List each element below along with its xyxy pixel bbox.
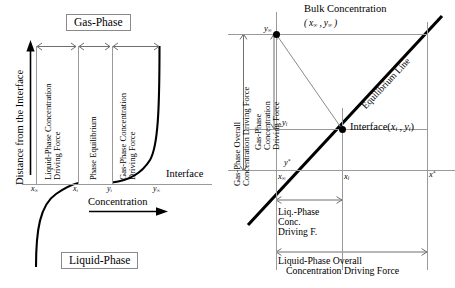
arrow-liquid-driving-force	[276, 197, 342, 204]
x-axis-label: Concentration	[88, 197, 147, 208]
grid-v-x-star	[427, 22, 428, 270]
interface-label: Interface	[166, 169, 203, 180]
bulk-concentration-coords: ( x∞ , y∞ )	[304, 19, 337, 29]
operating-tie-line	[276, 34, 342, 129]
tick-guide-y-i	[112, 46, 113, 184]
equilibrium-line-plot: Bulk Concentration ( x∞ , y∞ ) Interface…	[228, 0, 455, 288]
label-gas-overall-line2: Concentration Driving Force	[241, 87, 251, 186]
x-axis-arrow	[89, 207, 168, 216]
xtick-label-y-infinity: y∞	[153, 185, 160, 193]
y-axis-arrow	[26, 40, 34, 175]
label-liq-dr-line3: Driving F.	[278, 226, 317, 237]
xtick-label-x-star: x*	[429, 170, 435, 179]
tick-guide-x-i	[78, 46, 79, 184]
span-arrow-gas-driving-force	[113, 43, 159, 50]
xtick-label-x-infinity: x∞	[31, 185, 38, 193]
label-liquid-overall-driving-force: Liquid-Phase Overall Concentration Drivi…	[278, 256, 399, 276]
span-label-gas-driving-force-text2: Driving Force	[127, 132, 137, 180]
label-gas-overall-driving-force: Gas-Phase Overall Concentration Driving …	[233, 87, 251, 186]
span-label-liquid-driving-force: Liquid-Phase Concentration Driving Force	[44, 83, 62, 180]
ytick-label-y-star: y*	[284, 158, 290, 167]
label-liquid-driving-force: Liq.-Phase Conc. Driving F.	[278, 207, 319, 236]
label-gas-dr-line3: Driving Force	[271, 102, 281, 150]
x-axis-line	[228, 170, 455, 171]
ytick-label-y-infinity: y∞	[264, 24, 272, 33]
interface-point-label: Interface(xi , yi)	[350, 122, 414, 133]
span-label-gas-driving-force: Gas-Phase Concentration Driving Force	[119, 93, 137, 180]
bulk-concentration-point	[273, 31, 280, 38]
concentration-profile-plot: Gas-Phase Liquid-Phase Distance from the…	[0, 0, 228, 288]
span-label-liquid-driving-force-text2: Driving Force	[52, 132, 62, 180]
label-gas-driving-force: Gas-Phase Concentration Driving Force	[254, 101, 280, 150]
y-axis-arrow-svg	[0, 0, 228, 288]
xtick-label-x-i: xi	[344, 172, 349, 181]
bulk-concentration-label: Bulk Concentration	[304, 4, 387, 15]
xtick-label-y-i: yi	[107, 185, 112, 193]
interface-point	[339, 126, 346, 133]
tick-guide-x-infinity	[36, 46, 37, 184]
ytick-label-y-i: yi	[282, 118, 287, 127]
figure-root: Gas-Phase Liquid-Phase Distance from the…	[0, 0, 455, 288]
xtick-label-x-i: xi	[73, 185, 78, 193]
span-arrow-phase-equilibrium	[79, 43, 110, 50]
span-label-phase-equilibrium: Phase Equilibrium	[89, 116, 98, 180]
interface-axis-line	[22, 184, 212, 185]
label-liq-ov-line2: Concentration Driving Force	[286, 266, 399, 276]
span-arrow-liquid-driving-force	[37, 43, 76, 50]
xtick-label-x-infinity: x∞	[278, 172, 286, 181]
liquid-phase-profile-curve	[36, 183, 78, 267]
grid-h-y-infinity	[228, 34, 427, 35]
